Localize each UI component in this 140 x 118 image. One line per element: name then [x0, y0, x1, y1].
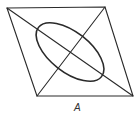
diagonal-top-right-to-bottom-left — [37, 7, 105, 96]
figure-label: A — [73, 102, 81, 113]
diagram: A — [0, 0, 140, 118]
